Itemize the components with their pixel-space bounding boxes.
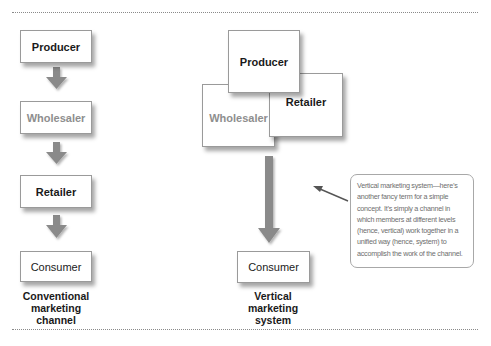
callout-line: accomplish the work of the channel. (357, 248, 469, 259)
conventional-consumer-box: Consumer (20, 251, 92, 282)
callout-line: (hence, vertical) work together in a (357, 225, 469, 236)
down-arrow-icon (46, 142, 67, 164)
caption-line: channel (6, 314, 106, 326)
callout-line: unified way (hence, system) to (357, 236, 469, 247)
node-label: Wholesaler (27, 112, 86, 124)
caption-line: Conventional (6, 290, 106, 302)
vertical-caption: Vertical marketing system (223, 290, 323, 326)
conventional-retailer-box: Retailer (20, 175, 92, 208)
conventional-caption: Conventional marketing channel (6, 290, 106, 326)
long-down-arrow-icon (258, 156, 280, 243)
caption-line: marketing (6, 302, 106, 314)
node-label: Retailer (36, 186, 76, 198)
node-label: Producer (240, 56, 288, 68)
down-arrow-icon (46, 215, 67, 238)
callout-line: another fancy term for a simple (357, 191, 469, 202)
node-label: Retailer (286, 96, 326, 108)
node-label: Consumer (248, 261, 299, 273)
vertical-producer-box: Producer (228, 30, 300, 93)
conventional-producer-box: Producer (20, 30, 92, 63)
conventional-wholesaler-box: Wholesaler (20, 101, 92, 134)
caption-line: marketing (223, 302, 323, 314)
callout-pointer-arrow-icon (313, 186, 348, 201)
caption-line: system (223, 314, 323, 326)
callout-line: Vertical marketing system—here’s (357, 180, 469, 191)
definition-callout: Vertical marketing system—here’s another… (350, 174, 474, 268)
down-arrow-icon (46, 67, 67, 89)
node-label: Consumer (31, 261, 82, 273)
caption-line: Vertical (223, 290, 323, 302)
node-label: Wholesaler (209, 112, 268, 124)
node-label: Producer (32, 41, 80, 53)
vertical-wholesaler-box: Wholesaler (202, 84, 275, 147)
callout-line: which members at different levels (357, 214, 469, 225)
vertical-consumer-box: Consumer (237, 251, 310, 283)
callout-line: concept. It’s simply a channel in (357, 203, 469, 214)
